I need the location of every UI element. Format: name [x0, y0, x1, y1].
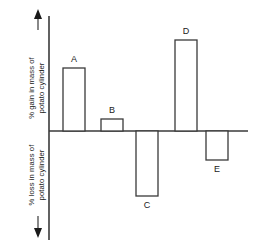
axis-caption-positive: % gain in mass of potato cylinder [27, 56, 46, 118]
bar-rect-e [206, 131, 228, 160]
bar-rect-d [175, 40, 197, 131]
down-arrow-icon [34, 216, 42, 238]
bar-d: D [175, 26, 197, 131]
chart-container: % gain in mass of potato cylinder % loss… [0, 0, 270, 251]
up-arrow-icon [34, 9, 42, 30]
bar-rect-a [63, 68, 85, 131]
axis-caption-positive-line1: % gain in mass of [27, 56, 36, 118]
bar-b: B [101, 105, 123, 131]
bar-rect-c [136, 131, 158, 196]
bar-a: A [63, 54, 85, 131]
bar-e: E [206, 131, 228, 174]
bar-rect-b [101, 119, 123, 131]
bar-label-c: C [144, 200, 151, 210]
bar-label-e: E [214, 164, 220, 174]
bar-chart: % gain in mass of potato cylinder % loss… [0, 0, 270, 251]
bar-label-b: B [109, 105, 115, 115]
axis-caption-negative-line2: potato cylinder [37, 149, 46, 200]
axis-caption-negative: % loss in mass of potato cylinder [27, 144, 46, 206]
bar-label-a: A [71, 54, 77, 64]
axis-caption-negative-line1: % loss in mass of [27, 144, 36, 206]
bar-c: C [136, 131, 158, 210]
axis-caption-positive-line2: potato cylinder [37, 62, 46, 113]
bar-label-d: D [183, 26, 190, 36]
